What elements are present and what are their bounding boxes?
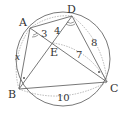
length-label-de: 4 — [54, 25, 60, 36]
length-label-bc: 10 — [57, 92, 70, 103]
angle-arc-d — [67, 22, 74, 23]
point-label-b: B — [8, 88, 16, 101]
angle-arc-a — [33, 33, 37, 35]
point-label-d: D — [67, 3, 76, 16]
side-ab — [19, 28, 30, 89]
point-label-c: C — [110, 82, 118, 95]
length-label-ab: x — [15, 52, 20, 62]
angle-arc-a-2 — [32, 35, 38, 37]
geometry-diagram: A D B C E 3 4 7 8 10 x — [0, 0, 126, 116]
point-label-e: E — [50, 46, 58, 59]
angle-arc-d-2 — [66, 24, 75, 25]
length-label-ec: 7 — [76, 49, 82, 60]
side-bc — [19, 82, 107, 89]
length-label-dc: 8 — [91, 37, 97, 48]
length-label-ae: 3 — [41, 28, 47, 39]
side-ad — [30, 16, 72, 28]
angle-dot-c — [98, 71, 100, 73]
point-label-a: A — [18, 16, 28, 29]
angle-dot-b — [23, 77, 25, 79]
